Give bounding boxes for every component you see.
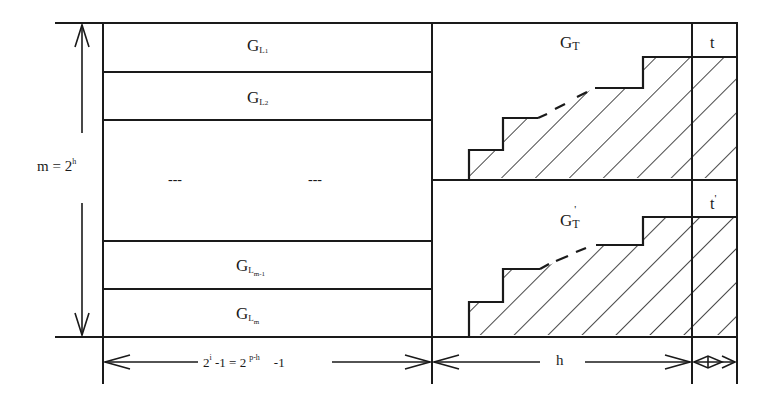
- label-t: t: [710, 34, 714, 52]
- ellipsis-right: ---: [308, 172, 322, 188]
- block-label-glm: GLm: [236, 304, 259, 326]
- bottom-dimension-left-label: 2i -1 = 2p-h-1: [203, 353, 285, 371]
- label-gt-prime: GT': [560, 211, 580, 232]
- block-label-glm-1: GLm-1: [236, 256, 265, 278]
- diagram-lines: [0, 0, 780, 406]
- ellipsis-left: ---: [168, 172, 182, 188]
- block-label-gl2: GL2: [247, 88, 268, 108]
- block-layout-diagram: GL1 GL2 --- --- GLm-1 GLm GT GT' t t' m …: [0, 0, 780, 406]
- label-t-prime: t': [710, 192, 716, 213]
- vertical-dimension-label: m = 2h: [37, 157, 76, 175]
- block-label-gl1: GL1: [247, 36, 268, 56]
- label-gt: GT: [560, 33, 580, 54]
- bottom-dimension-h-label: h: [556, 352, 564, 369]
